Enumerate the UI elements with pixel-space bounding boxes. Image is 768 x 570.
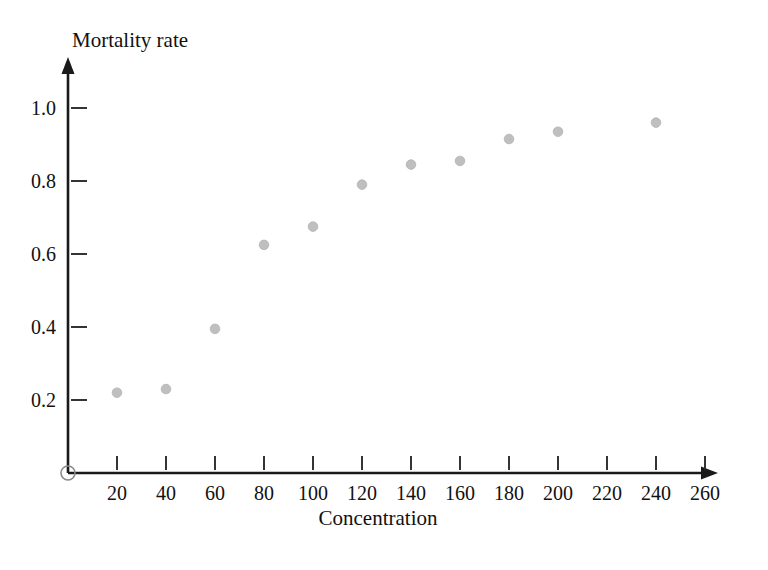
data-point [504, 134, 514, 144]
data-point [210, 324, 220, 334]
x-tick-label: 40 [156, 482, 176, 504]
scatter-plot: 0.20.40.60.81.0 204060801001201401601802… [0, 0, 768, 570]
x-tick-label: 140 [396, 482, 426, 504]
x-tick-label: 240 [641, 482, 671, 504]
data-point [357, 180, 367, 190]
x-tick-label: 180 [494, 482, 524, 504]
x-tick-label: 160 [445, 482, 475, 504]
x-tick-label: 80 [254, 482, 274, 504]
x-tick-label: 60 [205, 482, 225, 504]
y-tick-label: 1.0 [31, 97, 56, 119]
chart-page: 0.20.40.60.81.0 204060801001201401601802… [0, 0, 768, 570]
x-tick-label: 20 [107, 482, 127, 504]
x-tick-label: 200 [543, 482, 573, 504]
data-point [112, 388, 122, 398]
data-point [308, 222, 318, 232]
y-tick-label: 0.4 [31, 316, 56, 338]
data-point [455, 156, 465, 166]
y-tick-label: 0.8 [31, 170, 56, 192]
data-point [406, 160, 416, 170]
data-point [161, 384, 171, 394]
x-tick-label: 260 [690, 482, 720, 504]
y-tick-label: 0.6 [31, 243, 56, 265]
data-point [651, 118, 661, 128]
x-tick-label: 220 [592, 482, 622, 504]
y-axis-title: Mortality rate [72, 28, 188, 52]
x-tick-label: 100 [298, 482, 328, 504]
y-tick-label: 0.2 [31, 389, 56, 411]
data-point [259, 240, 269, 250]
x-axis-title: Concentration [319, 506, 438, 530]
data-point [553, 127, 563, 137]
x-tick-label: 120 [347, 482, 377, 504]
